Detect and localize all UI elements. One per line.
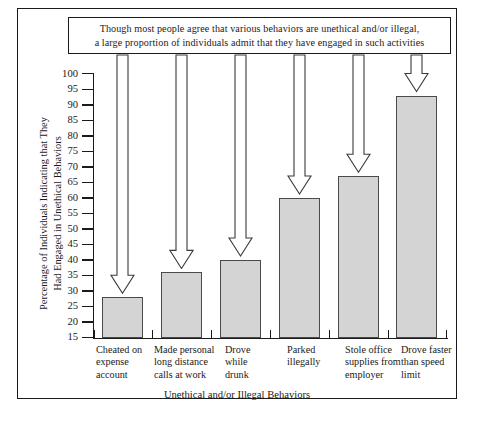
y-tick-mark [82, 89, 93, 90]
bar [279, 198, 320, 338]
y-tick-mark [82, 182, 93, 183]
y-tick-mark [82, 166, 93, 167]
y-tick-mark [82, 120, 93, 121]
y-tick-label: 50 [52, 224, 78, 235]
x-category-label: Stole office supplies from employer [345, 344, 401, 381]
bar [338, 176, 379, 337]
x-category-separator [152, 330, 153, 338]
y-tick-label: 85 [52, 115, 78, 126]
figure-chart: Though most people agree that various be… [0, 0, 477, 426]
callout-arrow-1 [110, 54, 135, 294]
x-axis-title: Unethical and/or Illegal Behaviors [17, 389, 457, 400]
y-tick-label: 80 [52, 131, 78, 142]
callout-arrow-2 [169, 54, 194, 269]
y-tick-mark [82, 104, 93, 105]
x-category-label: Parked illegally [287, 344, 320, 369]
y-tick-mark [82, 306, 93, 307]
y-tick-mark [82, 151, 93, 152]
y-tick-label: 40 [52, 255, 78, 266]
y-tick-label: 90 [52, 100, 78, 111]
x-category-separator [446, 330, 447, 338]
x-category-separator [329, 330, 330, 338]
y-tick-mark [82, 321, 93, 322]
bar [161, 272, 202, 337]
y-tick-mark [82, 213, 93, 214]
y-axis-line [93, 73, 94, 339]
callout-arrow-4 [287, 54, 312, 195]
y-tick-label: 15 [52, 332, 78, 343]
y-tick-label: 100 [52, 69, 78, 80]
y-tick-label: 30 [52, 286, 78, 297]
x-category-separator [270, 330, 271, 338]
y-tick-label: 95 [52, 84, 78, 95]
x-category-label: Cheated on expense account [96, 344, 142, 381]
y-tick-label: 25 [52, 301, 78, 312]
y-tick-mark [82, 73, 93, 74]
callout-arrow-3 [228, 54, 253, 257]
x-category-separator [388, 330, 389, 338]
bar [102, 297, 143, 337]
y-tick-label: 65 [52, 177, 78, 188]
y-tick-mark [82, 259, 93, 260]
y-tick-label: 55 [52, 208, 78, 219]
y-tick-label: 60 [52, 193, 78, 204]
y-tick-mark [82, 290, 93, 291]
bar [220, 260, 261, 338]
bar [396, 96, 437, 338]
y-tick-label: 45 [52, 239, 78, 250]
y-tick-mark [82, 135, 93, 136]
x-category-separator [94, 330, 95, 338]
x-category-separator [211, 330, 212, 338]
y-tick-label: 20 [52, 317, 78, 328]
y-tick-mark [82, 228, 93, 229]
x-category-label: Drove faster than speed limit [401, 344, 452, 381]
y-tick-mark [82, 275, 93, 276]
y-tick-mark [82, 244, 93, 245]
y-tick-label: 75 [52, 146, 78, 157]
x-category-label: Drove while drunk [225, 344, 250, 381]
y-tick-mark [82, 197, 93, 198]
y-tick-label: 35 [52, 270, 78, 281]
callout-arrow-5 [346, 54, 371, 173]
caption-text: Though most people agree that various be… [88, 22, 432, 50]
caption-callout-box: Though most people agree that various be… [68, 17, 451, 54]
y-tick-mark [82, 337, 93, 338]
callout-arrow-6 [404, 54, 429, 93]
x-category-label: Made personal long distance calls at wor… [154, 344, 214, 381]
y-tick-label: 70 [52, 162, 78, 173]
